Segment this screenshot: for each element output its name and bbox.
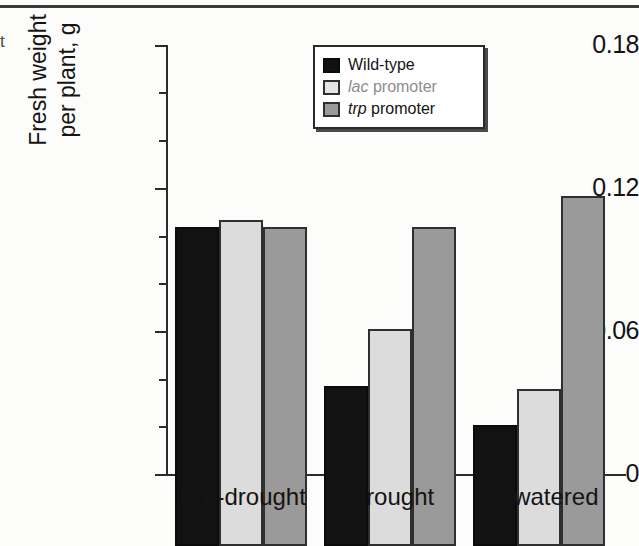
y-tick-major-000 bbox=[155, 474, 168, 476]
chart-legend: Wild-type lac promoter trp promoter bbox=[313, 45, 485, 129]
legend-label-trp-promoter: trp promoter bbox=[348, 100, 435, 118]
y-tick-minor bbox=[159, 379, 168, 381]
y-axis-title-line2: per plant, g bbox=[53, 22, 82, 137]
y-tick-minor bbox=[159, 426, 168, 428]
lac-promoter-swatch-icon bbox=[323, 80, 340, 95]
legend-label-wild-type: Wild-type bbox=[348, 56, 415, 74]
y-tick-major-006 bbox=[155, 331, 168, 333]
y-tick-minor bbox=[159, 236, 168, 238]
x-tick-label-rewatered: Rewatered bbox=[466, 483, 615, 511]
y-tick-minor bbox=[159, 283, 168, 285]
legend-item-trp-promoter: trp promoter bbox=[323, 98, 474, 120]
legend-item-lac-promoter: lac promoter bbox=[323, 76, 474, 98]
legend-label-lac-rest: promoter bbox=[368, 78, 436, 95]
legend-item-wild-type: Wild-type bbox=[323, 54, 474, 76]
y-tick-minor bbox=[159, 140, 168, 142]
bar-drought-wild-type[interactable] bbox=[324, 386, 368, 546]
bar-chart: Fresh weight per plant, g 0.18 0.12 0.06… bbox=[0, 0, 639, 546]
legend-label-trp-italic: trp bbox=[348, 100, 367, 117]
wild-type-swatch-icon bbox=[323, 58, 340, 73]
bar-group-drought bbox=[317, 117, 466, 546]
bar-group-rewatered bbox=[466, 117, 615, 546]
trp-promoter-swatch-icon bbox=[323, 102, 340, 117]
legend-label-trp-rest: promoter bbox=[367, 100, 435, 117]
x-tick-label-pre-drought: Pre-drought bbox=[168, 483, 317, 511]
legend-label-lac-promoter: lac promoter bbox=[348, 78, 437, 96]
x-tick-label-drought: Drought bbox=[317, 483, 466, 511]
y-axis-title: Fresh weight per plant, g bbox=[18, 0, 88, 220]
y-tick-major-018 bbox=[155, 45, 168, 47]
y-tick-major-012 bbox=[155, 188, 168, 190]
y-tick-minor bbox=[159, 92, 168, 94]
y-tick-label-018: 0.18 bbox=[491, 30, 639, 59]
legend-label-lac-italic: lac bbox=[348, 78, 368, 95]
bar-group-pre-drought bbox=[168, 117, 317, 546]
bar-drought-lac-promoter[interactable] bbox=[368, 329, 412, 546]
bar-rewatered-lac-promoter[interactable] bbox=[517, 389, 561, 546]
y-axis-title-line1: Fresh weight bbox=[24, 14, 53, 146]
